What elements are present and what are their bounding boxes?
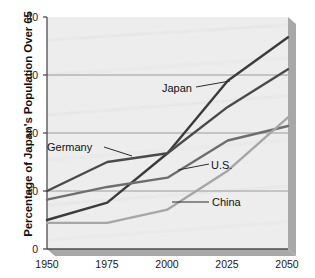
series-label-germany: Germany <box>47 141 92 153</box>
plot-shadow-bottom <box>47 249 296 256</box>
y-tick-label-20: 20 <box>14 127 38 139</box>
y-tick-label-10: 10 <box>14 185 38 197</box>
plot-shadow-right <box>288 17 296 256</box>
x-tick-label-2000: 2000 <box>147 258 187 270</box>
x-tick-label-2025: 2025 <box>207 258 247 270</box>
x-tick-label-1975: 1975 <box>87 258 127 270</box>
line-chart-plot <box>0 0 315 278</box>
chart-container: Percentage of Japan's Population Over 65… <box>0 0 315 278</box>
series-label-us: U.S. <box>211 159 232 171</box>
series-label-china: China <box>212 196 241 208</box>
x-tick-label-1950: 1950 <box>27 258 67 270</box>
y-axis-title: Percentage of Japan's Population Over 65 <box>22 4 34 244</box>
series-label-japan: Japan <box>162 82 192 94</box>
x-tick-label-2050: 2050 <box>267 258 307 270</box>
y-tick-label-0: 0 <box>14 243 38 255</box>
y-tick-label-40: 40 <box>14 11 38 23</box>
y-tick-label-30: 30 <box>14 69 38 81</box>
